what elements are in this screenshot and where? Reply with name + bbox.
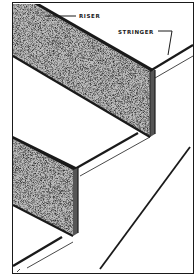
stringer-label: STRINGER [118,29,154,35]
tread-edge [73,133,150,176]
lower-riser [13,136,78,236]
upper-stringer [150,45,193,78]
corner-mark [17,269,20,272]
lower-tread-edge [13,237,73,268]
stringer-diagonal [100,147,190,269]
stringer-callout: STRINGER [118,29,172,55]
stair-diagram: RISER STRINGER [0,0,196,276]
diagram-canvas: RISER STRINGER [0,0,196,276]
upper-riser [13,4,155,137]
riser-label: RISER [79,13,100,19]
